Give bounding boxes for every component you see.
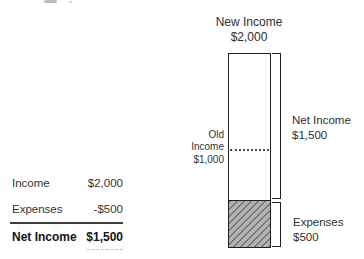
table-total-divider <box>10 222 123 224</box>
table-row-expenses: Expenses -$500 <box>12 202 123 216</box>
net-income-bracket <box>272 53 281 199</box>
expenses-label-line2: $500 <box>293 230 344 245</box>
table-row-income: Income $2,000 <box>12 176 123 190</box>
old-income-label-line1: Old <box>160 129 224 141</box>
chart-title-line1: New Income <box>197 15 301 30</box>
row-value: $2,000 <box>88 176 123 190</box>
old-income-dotted-line <box>230 149 269 151</box>
table-row-net-income: Net Income $1,500 <box>12 230 123 244</box>
income-bar <box>228 53 271 248</box>
row-label: Expenses <box>12 202 63 216</box>
net-income-value-underline <box>87 249 123 250</box>
old-income-label: Old Income $1,000 <box>160 129 224 166</box>
expenses-hatched-segment <box>229 200 270 247</box>
chart-title: New Income $2,000 <box>197 15 301 44</box>
row-label: Income <box>12 176 50 190</box>
row-label: Net Income <box>12 230 77 244</box>
chart-title-line2: $2,000 <box>197 30 301 45</box>
net-income-label-line1: Net Income <box>292 113 351 128</box>
net-income-label: Net Income $1,500 <box>292 113 351 142</box>
row-value: $1,500 <box>86 230 123 244</box>
row-value: -$500 <box>94 202 123 216</box>
expenses-label: Expenses $500 <box>293 215 344 244</box>
old-income-label-line2: Income <box>160 141 224 153</box>
expenses-label-line1: Expenses <box>293 215 344 230</box>
net-income-label-line2: $1,500 <box>292 128 351 143</box>
old-income-label-line3: $1,000 <box>160 154 224 166</box>
expenses-bracket <box>272 202 281 247</box>
cropped-text-remnant <box>69 1 72 3</box>
cropped-text-remnant <box>44 0 57 3</box>
figure-canvas: Income $2,000 Expenses -$500 Net Income … <box>0 0 364 259</box>
